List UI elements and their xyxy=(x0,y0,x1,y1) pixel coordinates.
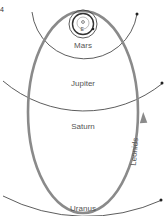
corner-mark: 4 xyxy=(0,6,4,13)
leonids-label: Leonids xyxy=(129,137,140,166)
leonids-direction-arrow-icon xyxy=(139,112,147,123)
earth-planet-dot xyxy=(92,28,95,31)
jupiter-label: Jupiter xyxy=(71,79,95,88)
saturn-label: Saturn xyxy=(71,122,95,131)
uranus-planet-dot xyxy=(160,199,163,202)
sun-icon xyxy=(82,21,85,24)
saturn-planet-dot xyxy=(161,82,164,85)
orbit-diagram: E Mars Jupiter Saturn Uranus Leonids 4 xyxy=(0,0,164,216)
mars-label: Mars xyxy=(74,41,92,50)
jupiter-planet-dot xyxy=(136,13,139,16)
uranus-label: Uranus xyxy=(70,204,96,213)
